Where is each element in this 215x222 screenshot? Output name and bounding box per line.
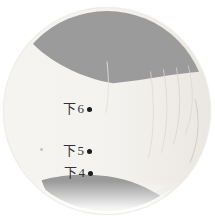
acupoint-label-text: 下5 (63, 144, 86, 158)
figure-canvas: 下6 下5 下4 (0, 0, 215, 222)
acupoint-dot (87, 149, 92, 154)
skin-speck (40, 148, 43, 151)
acupoint-label-text: 下4 (64, 166, 87, 180)
acupoint-dot (88, 171, 93, 176)
acupoint-dot (87, 107, 92, 112)
circular-photo: 下6 下5 下4 (3, 7, 211, 215)
acupoint-label-text: 下6 (63, 102, 86, 116)
photo-artwork (4, 8, 210, 214)
acupoint-label-xia-5: 下5 (63, 144, 92, 158)
acupoint-label-xia-4: 下4 (64, 166, 93, 180)
acupoint-label-xia-6: 下6 (63, 102, 92, 116)
